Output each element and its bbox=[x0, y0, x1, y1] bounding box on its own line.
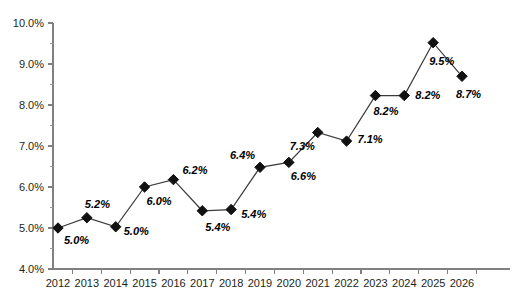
data-point-label: 6.0% bbox=[147, 195, 172, 207]
data-point-label: 7.3% bbox=[290, 140, 315, 152]
x-tick-label: 2025 bbox=[421, 277, 445, 289]
data-point-marker bbox=[111, 222, 121, 232]
data-point-marker bbox=[341, 136, 351, 146]
y-tick-label: 9.0% bbox=[19, 58, 44, 70]
x-tick-label: 2026 bbox=[450, 277, 474, 289]
x-tick-label: 2023 bbox=[363, 277, 387, 289]
data-point-label: 6.6% bbox=[291, 170, 316, 182]
data-point-label: 5.0% bbox=[124, 225, 149, 237]
data-point-label: 8.2% bbox=[415, 89, 440, 101]
y-tick-label: 7.0% bbox=[19, 140, 44, 152]
data-point-label: 5.2% bbox=[85, 198, 110, 210]
data-point-label: 6.4% bbox=[230, 149, 255, 161]
x-tick-label: 2021 bbox=[305, 277, 329, 289]
chart-canvas: 10.0%9.0%8.0%7.0%6.0%5.0%4.0% 2012201320… bbox=[0, 0, 524, 304]
x-tick-label: 2016 bbox=[161, 277, 185, 289]
data-point-label: 9.5% bbox=[429, 55, 454, 67]
data-point-marker bbox=[399, 90, 409, 100]
data-point-marker bbox=[370, 90, 380, 100]
x-tick-label: 2012 bbox=[46, 277, 70, 289]
y-axis: 10.0%9.0%8.0%7.0%6.0%5.0%4.0% bbox=[13, 17, 53, 275]
data-point-label: 6.2% bbox=[182, 164, 207, 176]
x-tick-label: 2022 bbox=[334, 277, 358, 289]
data-point-marker bbox=[53, 223, 63, 233]
y-tick-label: 4.0% bbox=[19, 263, 44, 275]
x-tick-label: 2020 bbox=[277, 277, 301, 289]
y-tick-label: 8.0% bbox=[19, 99, 44, 111]
data-point-labels: 5.0%5.2%5.0%6.0%6.2%5.4%5.4%6.4%6.6%7.3%… bbox=[64, 55, 481, 246]
data-point-label: 5.0% bbox=[64, 234, 89, 246]
data-point-marker bbox=[82, 213, 92, 223]
x-tick-label: 2024 bbox=[392, 277, 416, 289]
x-tick-label: 2014 bbox=[103, 277, 127, 289]
data-point-label: 8.7% bbox=[456, 88, 481, 100]
data-markers bbox=[53, 37, 467, 233]
data-point-marker bbox=[255, 162, 265, 172]
y-tick-label: 10.0% bbox=[13, 17, 44, 29]
data-point-label: 8.2% bbox=[373, 105, 398, 117]
x-tick-label: 2013 bbox=[75, 277, 99, 289]
data-point-label: 5.4% bbox=[205, 221, 230, 233]
x-axis: 2012201320142015201620172018201920202021… bbox=[46, 269, 510, 289]
series-line bbox=[58, 43, 462, 228]
x-tick-label: 2015 bbox=[132, 277, 156, 289]
x-tick-label: 2018 bbox=[219, 277, 243, 289]
data-point-label: 5.4% bbox=[241, 208, 266, 220]
x-tick-label: 2017 bbox=[190, 277, 214, 289]
data-series bbox=[58, 43, 462, 228]
y-tick-label: 5.0% bbox=[19, 222, 44, 234]
line-chart: 10.0%9.0%8.0%7.0%6.0%5.0%4.0% 2012201320… bbox=[0, 0, 524, 304]
data-point-label: 7.1% bbox=[358, 133, 383, 145]
y-tick-label: 6.0% bbox=[19, 181, 44, 193]
x-tick-label: 2019 bbox=[248, 277, 272, 289]
data-point-marker bbox=[139, 182, 149, 192]
data-point-marker bbox=[226, 204, 236, 214]
